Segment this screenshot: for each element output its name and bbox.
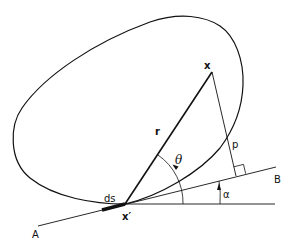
alpha-arrow-icon xyxy=(217,183,221,190)
label-theta: θ xyxy=(175,153,183,167)
label-p: p xyxy=(232,139,238,150)
label-x: x xyxy=(204,60,211,71)
label-a: A xyxy=(32,229,39,240)
perpendicular-p xyxy=(212,72,236,176)
label-b: B xyxy=(274,174,281,185)
diagram-figure: x x′ r θ p ds α A B xyxy=(0,0,290,250)
label-alpha: α xyxy=(223,189,230,200)
label-ds: ds xyxy=(104,193,116,204)
label-x-prime: x′ xyxy=(122,211,131,222)
ds-segment xyxy=(102,204,125,210)
label-r: r xyxy=(155,126,160,137)
closed-curve xyxy=(13,16,243,204)
tangent-line-ab xyxy=(38,167,276,226)
r-vector xyxy=(125,72,212,204)
